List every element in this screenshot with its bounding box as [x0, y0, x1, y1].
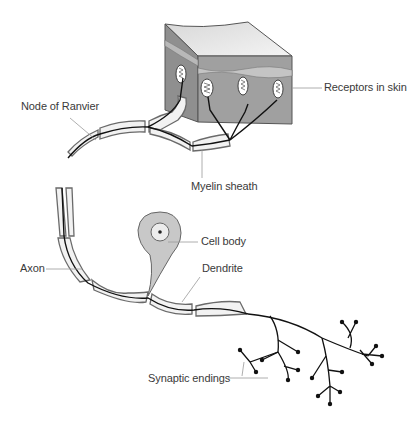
- leader-lines: [46, 88, 322, 378]
- label-dendrite: Dendrite: [202, 262, 243, 274]
- label-synaptic-endings: Synaptic endings: [148, 372, 230, 384]
- label-receptors-in-skin: Receptors in skin: [324, 81, 407, 93]
- cell-body: [138, 212, 181, 296]
- label-cell-body: Cell body: [201, 235, 246, 247]
- label-node-of-ranvier: Node of Ranvier: [21, 100, 99, 112]
- label-myelin-sheath: Myelin sheath: [191, 180, 258, 192]
- synaptic-terminal-dots: [238, 320, 384, 406]
- neuron-diagram: [0, 0, 418, 424]
- label-axon: Axon: [20, 262, 45, 274]
